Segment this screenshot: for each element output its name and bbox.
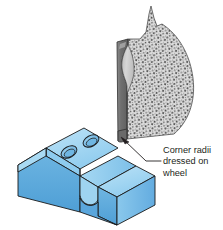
callout-leader-line [124,140,161,161]
grinding-wheel-group [117,6,194,142]
technical-illustration-figure: Corner radii dressed on wheel [0,0,223,230]
illustration-canvas [0,0,223,230]
callout-line-3: wheel [163,168,223,179]
callout-label: Corner radii dressed on wheel [163,145,223,179]
callout-leader-group [121,137,161,161]
callout-line-1: Corner radii [163,145,223,156]
callout-line-2: dressed on [163,156,223,167]
workpiece-group [18,128,155,225]
wheel-abrasive-body [127,6,194,139]
